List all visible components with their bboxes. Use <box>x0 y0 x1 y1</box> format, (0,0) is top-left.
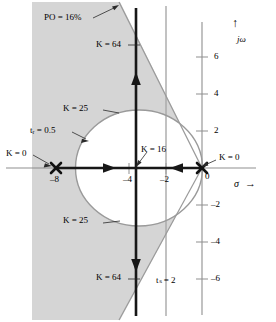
jomega-axis-arrow-icon: ↑ <box>232 17 238 29</box>
sigma-tick-minus4: –4 <box>123 175 132 184</box>
k25-bottom-label: K = 25 <box>63 216 88 225</box>
k25-top-label: K = 25 <box>63 104 88 113</box>
jomega-tick-minus2: –2 <box>211 200 220 209</box>
po-label: PO = 16% <box>44 13 82 22</box>
root-locus-figure: PO = 16% K = 64 K = 25 tᵣ = 0.5 K = 0 K … <box>0 0 276 322</box>
sigma-axis-label: σ <box>234 179 239 189</box>
jomega-tick-2: 2 <box>214 126 219 135</box>
ts-label: tₛ = 2 <box>156 276 176 285</box>
jomega-tick-minus4: –4 <box>211 237 220 246</box>
jomega-axis-label: jω <box>237 35 246 44</box>
k64-top-label: K = 64 <box>96 40 121 49</box>
k0-left-label: K = 0 <box>6 149 27 158</box>
sigma-axis-arrow-icon: → <box>245 178 256 189</box>
sigma-tick-0: 0 <box>205 172 210 181</box>
jomega-tick-6: 6 <box>214 52 219 61</box>
sigma-tick-minus8: –8 <box>50 175 59 184</box>
k64-bottom-label: K = 64 <box>96 273 121 282</box>
k0-right-label: K = 0 <box>219 153 240 162</box>
sigma-tick-minus2: –2 <box>160 175 169 184</box>
jomega-tick-minus6: –6 <box>211 274 220 283</box>
k16-label: K = 16 <box>141 145 166 154</box>
jomega-tick-4: 4 <box>214 89 219 98</box>
tr-label: tᵣ = 0.5 <box>30 126 55 135</box>
